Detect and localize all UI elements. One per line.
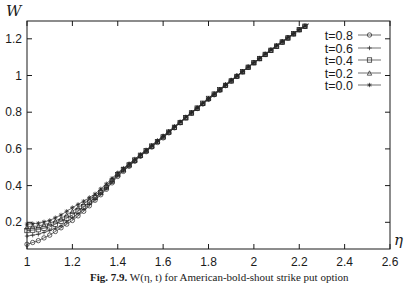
legend-item: t=0.4 [325, 54, 381, 68]
series-t=0.8 [25, 24, 309, 247]
y-tick-label: 1.2 [5, 32, 22, 46]
x-tick-label: 1 [24, 255, 31, 269]
legend: t=0.8t=0.6t=0.4t=0.2t=0.0 [325, 29, 381, 93]
x-tick-label: 2.4 [336, 255, 353, 269]
x-axis-label: η [394, 231, 403, 249]
y-tick-label: 1 [15, 69, 22, 83]
legend-item: t=0.8 [325, 29, 381, 43]
caption-text: W(η, t) for American-bold-shout strike p… [130, 271, 349, 283]
line-chart: 11.21.41.61.822.22.42.60.20.40.60.811.2 … [0, 0, 409, 283]
x-tick-label: 1.8 [200, 255, 217, 269]
series-t=0.4 [25, 24, 309, 233]
caption-prefix: Fig. 7.9. [90, 271, 127, 283]
x-tick-label: 2 [251, 255, 258, 269]
legend-item: t=0.0 [325, 79, 381, 93]
x-tick-label: 1.2 [64, 255, 81, 269]
plot-series [25, 24, 309, 247]
y-tick-label: 0.8 [5, 105, 22, 119]
legend-label: t=0.8 [325, 29, 353, 43]
x-tick-label: 2.2 [291, 255, 308, 269]
y-tick-label: 0.6 [5, 142, 22, 156]
x-tick-label: 1.6 [155, 255, 172, 269]
legend-label: t=0.0 [325, 79, 353, 93]
x-tick-label: 1.4 [109, 255, 126, 269]
y-tick-label: 0.2 [5, 215, 22, 229]
series-t=0.0 [25, 24, 309, 226]
figure-caption: Fig. 7.9. W(η, t) for American-bold-shou… [90, 271, 349, 283]
x-tick-label: 2.6 [382, 255, 399, 269]
legend-label: t=0.4 [325, 54, 353, 68]
y-tick-label: 0.4 [5, 179, 22, 193]
y-axis-label: W [6, 2, 23, 20]
